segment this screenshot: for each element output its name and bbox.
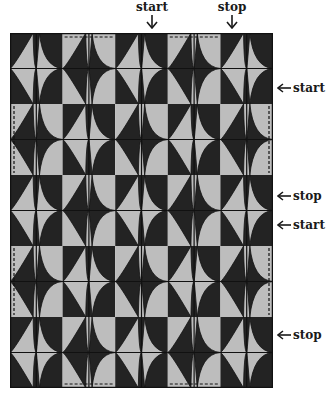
quilt-block	[63, 317, 116, 388]
quilt-block	[220, 246, 273, 317]
top-start-label: start	[132, 1, 172, 13]
quilt-block	[168, 104, 221, 175]
down-arrow-icon	[145, 15, 159, 29]
quilt-block	[168, 246, 221, 317]
quilt-block	[115, 33, 168, 104]
quilt-block	[220, 175, 273, 246]
quilt-block	[63, 33, 116, 104]
quilt-block	[10, 104, 63, 175]
quilt-block	[10, 246, 63, 317]
side-start-label: start	[277, 82, 325, 94]
label-text: start	[293, 82, 325, 94]
quilt-block	[168, 317, 221, 388]
quilt-block	[115, 175, 168, 246]
label-text: stop	[293, 190, 322, 202]
quilt-block	[10, 33, 63, 104]
quilt-block	[168, 33, 221, 104]
left-arrow-icon	[277, 330, 291, 340]
left-arrow-icon	[277, 83, 291, 93]
quilt-block	[63, 246, 116, 317]
side-stop-label: stop	[277, 190, 322, 202]
label-text: start	[293, 219, 325, 231]
quilt-block	[115, 246, 168, 317]
label-text: stop	[293, 329, 322, 341]
quilt-block	[115, 317, 168, 388]
quilt-block	[115, 104, 168, 175]
quilt-block	[220, 33, 273, 104]
quilt-block	[10, 317, 63, 388]
quilt-block	[63, 175, 116, 246]
left-arrow-icon	[277, 191, 291, 201]
quilt-block	[10, 175, 63, 246]
quilt-block	[220, 104, 273, 175]
quilt-block	[168, 175, 221, 246]
quilt-block	[63, 104, 116, 175]
top-stop-label: stop	[212, 1, 252, 13]
quilt-grid	[10, 33, 273, 388]
down-arrow-icon	[225, 15, 239, 29]
side-stop-label: stop	[277, 329, 322, 341]
quilt-block	[220, 317, 273, 388]
left-arrow-icon	[277, 220, 291, 230]
side-start-label: start	[277, 219, 325, 231]
